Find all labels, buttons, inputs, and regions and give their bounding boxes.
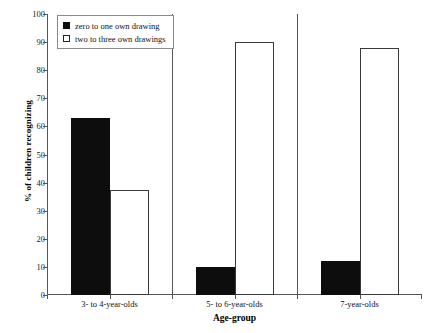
bar[interactable] [321, 261, 360, 295]
y-axis-tick-label: 70 [9, 93, 45, 103]
legend: zero to one own drawingtwo to three own … [57, 15, 174, 49]
y-axis-tick-label: 50 [9, 150, 45, 160]
x-axis-category-label: 3- to 4-year-olds [47, 299, 172, 309]
y-axis-tick-label: 80 [9, 65, 45, 75]
y-axis-tick-label: 40 [9, 178, 45, 188]
legend-item[interactable]: zero to one own drawing [63, 19, 166, 32]
x-axis-category-label: 5- to 6-year-olds [172, 299, 297, 309]
y-axis-tick-label: 100 [9, 9, 45, 19]
bar[interactable] [71, 118, 110, 295]
x-axis-category-labels: 3- to 4-year-olds5- to 6-year-olds7-year… [47, 299, 422, 309]
bar-chart: % of children recognizing 10090807060504… [0, 0, 439, 333]
y-axis-tick-label: 20 [9, 234, 45, 244]
legend-swatch-filled-icon [63, 22, 70, 29]
bar-pair [196, 14, 274, 295]
legend-item[interactable]: two to three own drawings [63, 32, 166, 45]
y-axis-tick-label: 30 [9, 206, 45, 216]
y-axis-tick-label: 0 [9, 290, 45, 300]
legend-label: two to three own drawings [75, 34, 166, 44]
y-axis-tick-label: 60 [9, 121, 45, 131]
legend-label: zero to one own drawing [75, 21, 160, 31]
bar-pair [71, 14, 149, 295]
bar-group [172, 14, 297, 295]
x-axis-title: Age-group [47, 313, 422, 323]
x-axis-category-label: 7-year-olds [297, 299, 422, 309]
bar-group [297, 14, 422, 295]
bar-group [47, 14, 172, 295]
y-axis-tick-label: 90 [9, 37, 45, 47]
bar[interactable] [196, 267, 235, 295]
bar[interactable] [235, 42, 274, 295]
bar-pair [321, 14, 399, 295]
bar[interactable] [360, 48, 399, 295]
bar[interactable] [110, 190, 149, 295]
y-axis-tick-label: 10 [9, 262, 45, 272]
legend-swatch-hollow-icon [63, 35, 70, 42]
bar-groups [47, 14, 422, 295]
plot-area: 1009080706050403020100 [47, 14, 422, 295]
